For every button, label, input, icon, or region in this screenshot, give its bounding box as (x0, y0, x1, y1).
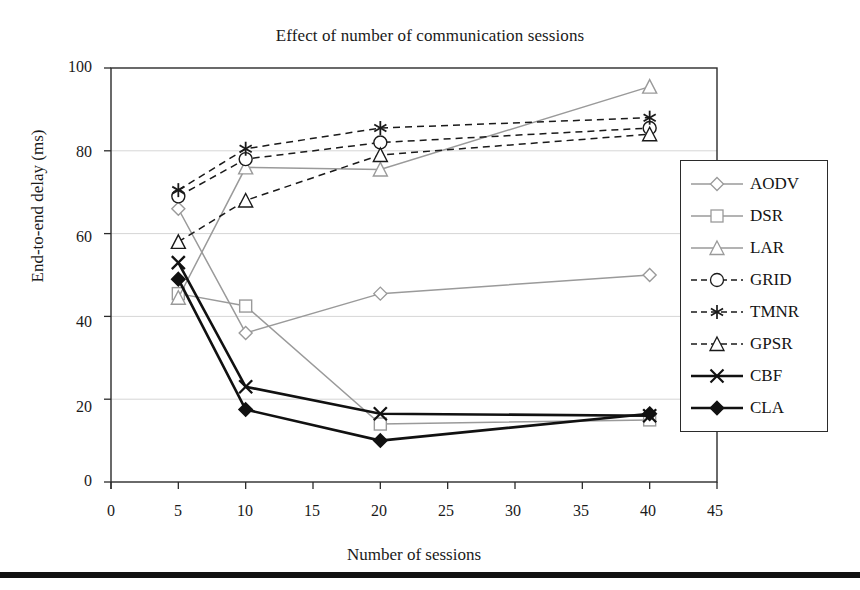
series-cla (172, 273, 656, 447)
legend-label-cbf: CBF (750, 366, 782, 386)
legend-item-grid[interactable]: GRID (681, 264, 827, 296)
legend: AODV DSR LAR GRID TMNR GPSR CBF CLA (680, 160, 828, 432)
legend-label-aodv: AODV (750, 174, 799, 194)
bottom-rule (0, 572, 860, 578)
series-aodv (172, 202, 656, 339)
legend-item-lar[interactable]: LAR (681, 232, 827, 264)
legend-swatch-grid (689, 269, 745, 291)
series-tmnr (172, 111, 655, 197)
data-series-layer (171, 80, 656, 447)
legend-swatch-lar (689, 237, 745, 259)
legend-item-dsr[interactable]: DSR (681, 200, 827, 232)
legend-label-cla: CLA (750, 398, 784, 418)
chart-figure: Effect of number of communication sessio… (0, 0, 860, 590)
series-gpsr (171, 127, 656, 248)
legend-swatch-tmnr (689, 301, 745, 323)
legend-swatch-gpsr (689, 333, 745, 355)
legend-label-dsr: DSR (750, 206, 783, 226)
legend-label-gpsr: GPSR (750, 334, 793, 354)
legend-swatch-cbf (689, 365, 745, 387)
gridlines (111, 151, 717, 399)
legend-label-tmnr: TMNR (750, 302, 799, 322)
legend-label-grid: GRID (750, 270, 792, 290)
axis-ticks (104, 68, 717, 489)
legend-swatch-cla (689, 397, 745, 419)
legend-item-cla[interactable]: CLA (681, 392, 827, 424)
legend-item-gpsr[interactable]: GPSR (681, 328, 827, 360)
legend-item-cbf[interactable]: CBF (681, 360, 827, 392)
legend-item-aodv[interactable]: AODV (681, 168, 827, 200)
series-lar (171, 80, 656, 305)
legend-label-lar: LAR (750, 238, 784, 258)
legend-swatch-dsr (689, 205, 745, 227)
series-grid (172, 122, 656, 203)
legend-item-tmnr[interactable]: TMNR (681, 296, 827, 328)
legend-swatch-aodv (689, 173, 745, 195)
